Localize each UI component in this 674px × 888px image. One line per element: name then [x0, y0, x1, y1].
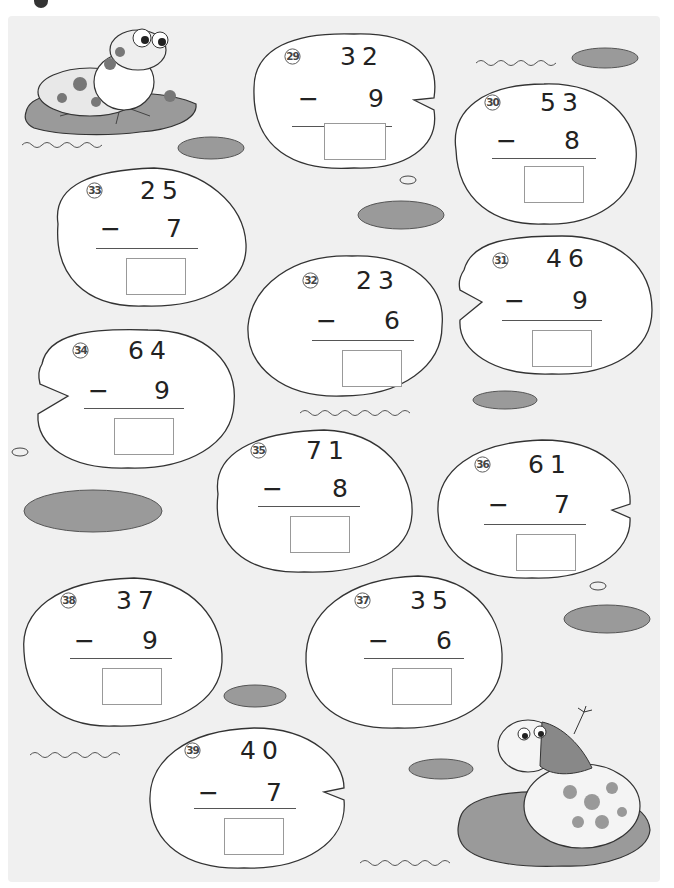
subtrahend: 7: [266, 778, 282, 807]
minus-sign: −: [74, 626, 95, 655]
minuend: 71: [306, 436, 350, 465]
lily-pad-icon: [356, 198, 446, 232]
answer-box[interactable]: [532, 330, 592, 367]
problem-39: 39 40 − 7: [144, 722, 350, 872]
answer-line: [70, 658, 172, 659]
minuend: 53: [540, 88, 584, 117]
problem-number: 34: [72, 342, 88, 358]
frog-on-lily-pad-illustration: [20, 12, 200, 142]
subtrahend: 9: [142, 626, 158, 655]
minuend: 46: [546, 244, 590, 273]
subtrahend: 6: [436, 626, 452, 655]
minus-sign: −: [198, 778, 219, 807]
answer-box[interactable]: [516, 534, 576, 571]
answer-box[interactable]: [290, 516, 350, 553]
minus-sign: −: [100, 214, 121, 243]
bubble-icon: [10, 446, 30, 458]
lily-pad-icon: [176, 134, 246, 162]
problem-number: 30: [484, 94, 500, 110]
minuend: 40: [240, 736, 284, 765]
minuend: 35: [410, 586, 454, 615]
problem-30: 30 53 − 8: [444, 80, 640, 228]
problem-number: 39: [184, 742, 200, 758]
answer-box[interactable]: [126, 258, 186, 295]
minus-sign: −: [262, 474, 283, 503]
lily-pad-icon: [222, 682, 288, 710]
water-ripple-icon: [360, 858, 450, 868]
answer-line: [194, 808, 296, 809]
minuend: 61: [528, 450, 572, 479]
answer-line: [258, 506, 360, 507]
problem-number: 31: [492, 252, 508, 268]
problem-number: 36: [474, 456, 490, 472]
minus-sign: −: [488, 490, 509, 519]
minus-sign: −: [496, 126, 517, 155]
minus-sign: −: [368, 626, 389, 655]
lily-pad-icon: [562, 602, 652, 636]
problem-38: 38 37 − 9: [14, 572, 226, 730]
subtrahend: 8: [332, 474, 348, 503]
minuend: 64: [128, 336, 172, 365]
answer-line: [484, 524, 586, 525]
answer-line: [492, 158, 596, 159]
answer-box[interactable]: [224, 818, 284, 855]
problem-32: 32 23 − 6: [242, 246, 448, 400]
answer-box[interactable]: [114, 418, 174, 455]
subtrahend: 9: [154, 376, 170, 405]
answer-box[interactable]: [392, 668, 452, 705]
problem-35: 35 71 − 8: [204, 424, 416, 576]
problem-31: 31 46 − 9: [452, 230, 656, 378]
water-ripple-icon: [300, 408, 410, 418]
answer-line: [364, 658, 464, 659]
subtrahend: 6: [384, 306, 400, 335]
answer-line: [502, 320, 602, 321]
answer-box[interactable]: [324, 123, 386, 160]
lily-pad-icon: [570, 44, 640, 72]
water-ripple-icon: [476, 58, 556, 68]
minuend: 37: [116, 586, 160, 615]
problem-number: 29: [284, 48, 300, 64]
problem-number: 33: [86, 182, 102, 198]
subtrahend: 8: [564, 126, 580, 155]
answer-box[interactable]: [342, 350, 402, 387]
water-ripple-icon: [30, 750, 120, 760]
lily-pad-icon: [470, 388, 540, 412]
subtrahend: 9: [368, 84, 384, 113]
minuend: 25: [140, 176, 184, 205]
bubble-icon: [398, 174, 418, 186]
page-corner-mark: [34, 0, 48, 8]
subtrahend: 9: [572, 286, 588, 315]
problem-number: 38: [60, 592, 76, 608]
bubble-icon: [588, 580, 608, 592]
lily-pad-icon: [22, 488, 164, 534]
answer-line: [84, 408, 184, 409]
problem-number: 35: [250, 442, 266, 458]
problem-29: 29 32 − 9: [244, 28, 444, 172]
lily-pad-icon: [406, 756, 476, 782]
subtrahend: 7: [554, 490, 570, 519]
problem-36: 36 61 − 7: [432, 432, 638, 582]
minuend: 32: [340, 42, 384, 71]
problem-number: 37: [354, 592, 370, 608]
problem-33: 33 25 − 7: [44, 164, 250, 310]
answer-line: [96, 248, 198, 249]
problem-37: 37 35 − 6: [298, 572, 504, 732]
minuend: 23: [356, 266, 400, 295]
minus-sign: −: [298, 84, 319, 113]
minus-sign: −: [504, 286, 525, 315]
answer-line: [312, 340, 414, 341]
answer-box[interactable]: [102, 668, 162, 705]
problem-number: 32: [302, 272, 318, 288]
water-ripple-icon: [22, 140, 102, 150]
minus-sign: −: [316, 306, 337, 335]
minus-sign: −: [88, 376, 109, 405]
subtrahend: 7: [166, 214, 182, 243]
answer-box[interactable]: [524, 166, 584, 203]
